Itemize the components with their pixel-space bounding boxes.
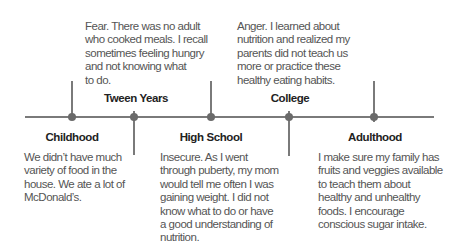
adulthood-label: Adulthood [348, 131, 402, 143]
high-school-connector [210, 81, 212, 117]
tween-text: Fear. There was no adult who cooked meal… [85, 20, 208, 87]
adulthood-text: I make sure my family has fruits and veg… [318, 151, 443, 231]
college-marker [285, 113, 293, 121]
college-text: Anger. I learned about nutrition and rea… [237, 20, 350, 87]
high-school-marker [207, 113, 215, 121]
adulthood-marker [370, 113, 378, 121]
high-school-label: High School [180, 131, 243, 143]
college-label: College [271, 92, 310, 104]
childhood-text: We didn’t have much variety of food in t… [24, 151, 125, 205]
tween-label: Tween Years [104, 92, 168, 104]
childhood-connector [71, 81, 73, 117]
childhood-marker [68, 113, 76, 121]
tween-marker [130, 113, 138, 121]
high-school-text: Insecure. As I went through puberty, my … [160, 151, 279, 245]
childhood-label: Childhood [45, 131, 98, 143]
